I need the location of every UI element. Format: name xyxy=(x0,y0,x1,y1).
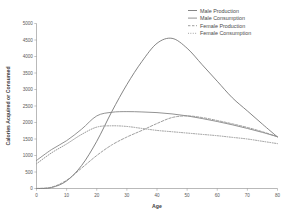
y-tick-label: 4000 xyxy=(23,54,34,59)
x-tick-label: 50 xyxy=(185,193,191,198)
legend-label-1: Male Consumption xyxy=(200,15,245,21)
legend-label-0: Male Production xyxy=(200,8,239,14)
legend-label-2: Female Production xyxy=(200,23,245,29)
x-tick-label: 80 xyxy=(275,193,281,198)
chart-svg: 0500100015002000250030003500400045005000… xyxy=(0,0,289,220)
line-chart: 0500100015002000250030003500400045005000… xyxy=(0,0,289,220)
x-tick-label: 20 xyxy=(94,193,100,198)
y-tick-label: 500 xyxy=(25,170,33,175)
legend-label-3: Female Consumption xyxy=(200,30,251,36)
x-tick-label: 70 xyxy=(245,193,251,198)
y-tick-label: 1000 xyxy=(23,153,34,158)
x-axis-title: Age xyxy=(152,203,162,209)
x-tick-label: 40 xyxy=(154,193,160,198)
y-tick-label: 3000 xyxy=(23,87,34,92)
y-axis-title: Calories Acquired or Consumed xyxy=(5,66,11,145)
x-tick-label: 60 xyxy=(215,193,221,198)
y-tick-label: 0 xyxy=(30,186,33,191)
y-tick-label: 2000 xyxy=(23,120,34,125)
y-tick-label: 4500 xyxy=(23,38,34,43)
y-tick-label: 5000 xyxy=(23,21,34,26)
x-tick-label: 10 xyxy=(64,193,70,198)
y-tick-label: 2500 xyxy=(23,104,34,109)
x-tick-label: 0 xyxy=(35,193,38,198)
y-tick-label: 1500 xyxy=(23,137,34,142)
y-tick-label: 3500 xyxy=(23,71,34,76)
x-tick-label: 30 xyxy=(124,193,130,198)
